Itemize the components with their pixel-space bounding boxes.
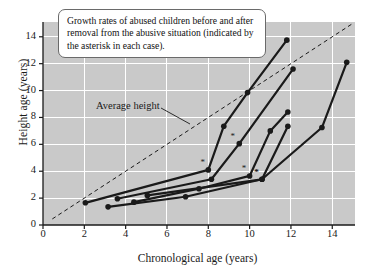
y-tick-label: 10	[14, 84, 36, 95]
x-tick-label: 12	[279, 228, 303, 239]
data-point	[319, 125, 325, 131]
data-point	[259, 176, 265, 182]
data-point	[285, 109, 291, 115]
x-tick-label: 10	[238, 228, 262, 239]
x-tick-label: 4	[114, 228, 138, 239]
data-point	[236, 141, 242, 147]
data-point	[267, 128, 273, 134]
data-point	[245, 90, 251, 96]
data-point	[83, 200, 89, 206]
chart-caption-box: Growth rates of abused children before a…	[58, 9, 266, 58]
y-tick-label: 14	[14, 30, 36, 41]
data-point	[221, 123, 227, 129]
data-point	[115, 196, 121, 202]
asterisk-marker: *	[242, 163, 247, 173]
data-point	[344, 60, 350, 66]
y-tick-label: 6	[14, 137, 36, 148]
x-tick-label: 2	[72, 228, 96, 239]
y-tick-label: 12	[14, 57, 36, 68]
data-point	[145, 193, 151, 199]
x-axis-title: Chronological age (years)	[40, 252, 355, 264]
y-tick-label: 4	[14, 164, 36, 175]
y-tick-label: 2	[14, 191, 36, 202]
y-tick-label: 0	[14, 218, 36, 229]
data-point	[247, 173, 253, 179]
x-tick-label: 6	[155, 228, 179, 239]
average-height-annotation: Average height	[96, 100, 160, 111]
x-tick-label: 0	[31, 228, 55, 239]
y-tick-label: 8	[14, 110, 36, 121]
data-point	[290, 66, 296, 72]
data-point	[209, 176, 215, 182]
chart-caption-text: Growth rates of abused children before a…	[67, 15, 254, 51]
data-point	[183, 194, 189, 200]
data-point	[205, 167, 211, 173]
data-point	[105, 204, 111, 210]
y-axis-title: Height age (years)	[17, 27, 29, 177]
data-point	[284, 37, 290, 43]
asterisk-marker: *	[201, 157, 206, 167]
asterisk-marker: *	[254, 167, 259, 177]
asterisk-marker: *	[231, 131, 236, 141]
data-point	[285, 123, 291, 129]
x-tick-label: 8	[196, 228, 220, 239]
x-tick-label: 14	[320, 228, 344, 239]
